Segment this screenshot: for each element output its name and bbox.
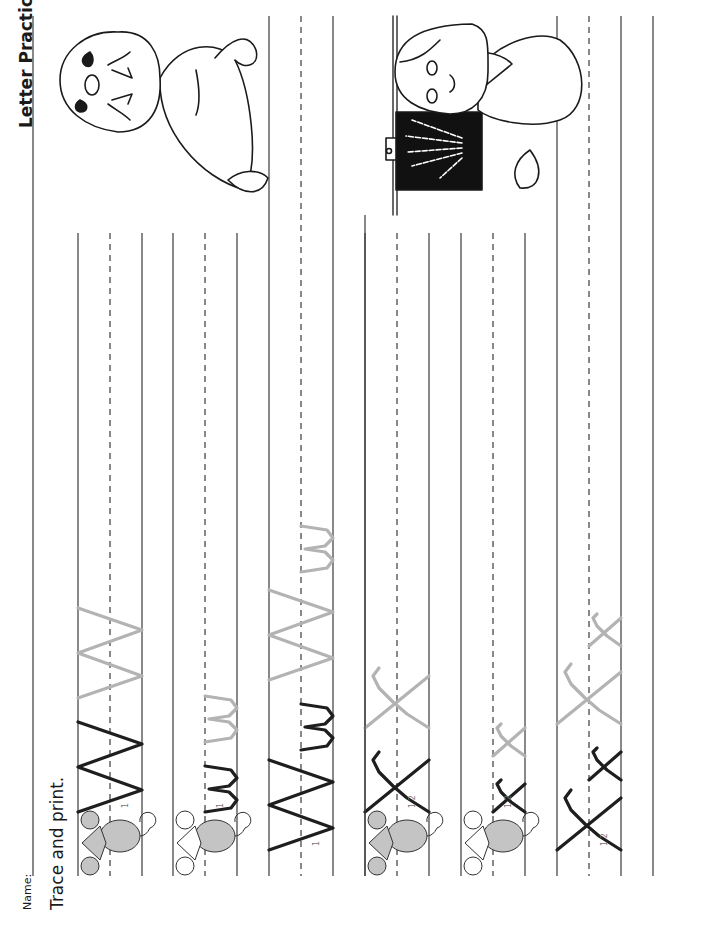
mouse-ear-icon: [81, 857, 99, 875]
mouse-body-icon: [195, 820, 235, 852]
worksheet-page: Letter Practice Name: Trace and print. 1…: [0, 0, 717, 936]
walrus-illustration: [60, 32, 268, 192]
mouse-ear-icon: [464, 857, 482, 875]
mouse-body-icon: [100, 820, 140, 852]
mouse-ear-icon: [368, 811, 386, 829]
mouse-gray-icon: [81, 811, 156, 875]
name-label: Name:: [21, 874, 34, 910]
mouse-body-icon: [387, 820, 427, 852]
mouse-ear-icon: [368, 857, 386, 875]
mouse-white-icon: [464, 811, 539, 875]
stroke-order-hint: 1 2: [504, 795, 513, 808]
instruction-text: Trace and print.: [47, 777, 67, 911]
stroke-order-hint: 1: [312, 841, 321, 846]
stroke-order-hint: 1: [121, 803, 130, 808]
trace-letter: [205, 696, 237, 742]
stroke-order-hint: 1 2: [600, 833, 609, 846]
mouse-gray-icon: [368, 811, 443, 875]
trace-letter: [301, 526, 333, 572]
mouse-ear-icon: [176, 857, 194, 875]
doctor-xray-illustration: [386, 16, 582, 215]
model-letter: [301, 704, 333, 750]
mouse-ear-icon: [81, 811, 99, 829]
mouse-body-icon: [483, 820, 523, 852]
letter-guides: 1111 21 21 2: [78, 526, 621, 850]
mouse-ear-icon: [176, 811, 194, 829]
mouse-white-icon: [176, 811, 251, 875]
mouse-ear-icon: [464, 811, 482, 829]
stroke-order-hint: 1 2: [408, 795, 417, 808]
model-letter: [269, 760, 333, 850]
stroke-order-hint: 1: [216, 803, 225, 808]
